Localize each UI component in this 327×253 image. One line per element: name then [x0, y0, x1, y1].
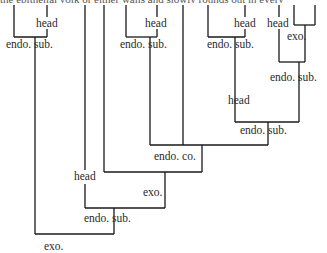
label-endo-sub: endo. sub.	[6, 38, 53, 50]
label-exo: exo.	[143, 186, 163, 198]
label-head: head	[234, 17, 256, 29]
label-endo-sub: endo. sub.	[240, 124, 287, 136]
label-head: head	[36, 17, 58, 29]
label-head: head	[145, 17, 167, 29]
label-exo: exo.	[44, 240, 64, 252]
label-endo-sub: endo. sub.	[207, 38, 254, 50]
label-head: head	[267, 17, 289, 29]
cladogram-diagram: head endo. sub. head endo. sub. head end…	[0, 0, 327, 253]
label-endo-sub: endo. sub.	[270, 71, 317, 83]
labels: head endo. sub. head endo. sub. head end…	[6, 17, 317, 252]
label-endo-sub: endo. sub.	[120, 38, 167, 50]
label-head: head	[74, 170, 96, 182]
label-endo-sub: endo. sub.	[84, 212, 131, 224]
label-endo-co: endo. co.	[154, 150, 196, 162]
label-head: head	[228, 94, 250, 106]
label-exo: exo.	[287, 30, 307, 42]
